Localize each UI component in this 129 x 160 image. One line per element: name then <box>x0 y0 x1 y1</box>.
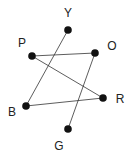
label-o: O <box>107 39 116 53</box>
node-y <box>64 26 72 34</box>
edge-b-r <box>26 98 103 106</box>
edge-y-b <box>26 30 68 106</box>
label-p: P <box>18 36 26 50</box>
graph-diagram: Y P O R B G <box>0 0 129 160</box>
node-p <box>28 52 36 60</box>
label-y: Y <box>64 6 72 20</box>
node-g <box>64 125 72 133</box>
node-r <box>99 94 107 102</box>
edge-p-r <box>32 56 103 98</box>
edge-p-o <box>32 53 95 56</box>
label-b: B <box>8 105 16 119</box>
edges <box>26 30 103 129</box>
label-r: R <box>116 92 125 106</box>
label-g: G <box>54 139 63 153</box>
nodes <box>22 26 107 133</box>
node-o <box>91 49 99 57</box>
node-b <box>22 102 30 110</box>
